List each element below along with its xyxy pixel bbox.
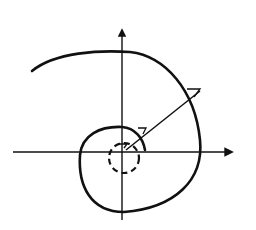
spiral-diagram [0, 0, 256, 230]
background [0, 0, 256, 230]
